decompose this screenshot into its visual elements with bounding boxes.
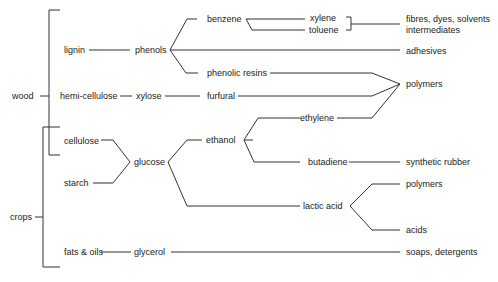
node-glucose: glucose [134, 157, 165, 167]
node-benzene: benzene [207, 14, 242, 24]
node-fibres-dyes-solvents: fibres, dyes, solvents [406, 14, 490, 24]
node-intermediates: intermediates [406, 25, 460, 35]
biorefinery-flow-diagram: wood crops lignin hemi-cellulose cellulo… [0, 0, 498, 282]
node-ethylene: ethylene [300, 113, 334, 123]
node-starch: starch [64, 178, 89, 188]
node-glycerol: glycerol [134, 247, 165, 257]
node-adhesives: adhesives [406, 46, 447, 56]
node-phenolic-resins: phenolic resins [207, 68, 267, 78]
node-fats-oils: fats & oils [64, 247, 103, 257]
node-toluene: toluene [309, 25, 339, 35]
node-butadiene: butadiene [308, 157, 348, 167]
node-lignin: lignin [64, 45, 85, 55]
node-ethanol: ethanol [206, 135, 236, 145]
node-acids: acids [406, 225, 427, 235]
node-wood: wood [12, 91, 34, 101]
node-hemicellulose: hemi-cellulose [60, 91, 118, 101]
node-crops: crops [10, 212, 32, 222]
node-xylene: xylene [310, 13, 336, 23]
node-synthetic-rubber: synthetic rubber [406, 157, 470, 167]
node-soaps-detergents: soaps, detergents [406, 247, 478, 257]
node-lactic-acid: lactic acid [303, 201, 343, 211]
node-polymers-top: polymers [406, 79, 443, 89]
node-xylose: xylose [136, 91, 162, 101]
node-polymers-bottom: polymers [406, 179, 443, 189]
node-phenols: phenols [135, 45, 167, 55]
node-furfural: furfural [207, 91, 235, 101]
node-cellulose: cellulose [64, 136, 99, 146]
